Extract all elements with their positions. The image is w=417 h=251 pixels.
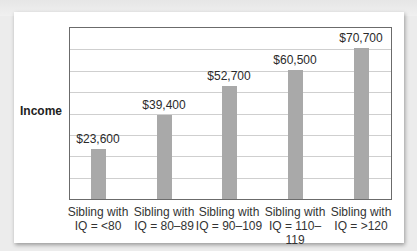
bar-value-label: $39,400 xyxy=(134,98,194,112)
bar-value-label: $70,700 xyxy=(331,31,391,45)
bar xyxy=(288,70,303,199)
x-tick-label: Sibling withIQ = >120 xyxy=(326,205,396,233)
bar-value-label: $52,700 xyxy=(199,69,259,83)
x-tick-label: Sibling withIQ = 90–109 xyxy=(194,205,264,233)
bar xyxy=(157,115,172,199)
x-tick-label: Sibling withIQ = 80–89 xyxy=(129,205,199,233)
chart-card: Income $23,600$39,400$52,700$60,500$70,7… xyxy=(14,12,404,243)
bar-value-label: $23,600 xyxy=(68,132,128,146)
bar-value-label: $60,500 xyxy=(265,53,325,67)
bar xyxy=(222,86,237,199)
gridline xyxy=(70,49,391,50)
bar xyxy=(91,149,106,199)
plot-area: $23,600$39,400$52,700$60,500$70,700 xyxy=(69,27,392,200)
x-tick-label: Sibling withIQ = 110–119 xyxy=(260,205,330,247)
y-axis-label: Income xyxy=(20,104,62,118)
x-tick-label: Sibling withIQ = <80 xyxy=(63,205,133,233)
bar xyxy=(354,48,369,199)
